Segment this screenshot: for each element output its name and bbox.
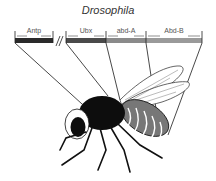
ubx-bar <box>66 38 106 43</box>
fly-diagram <box>0 0 216 181</box>
break-mark-icon <box>56 36 63 46</box>
abd-a-bar <box>106 38 146 43</box>
abd-b-bar <box>146 38 202 43</box>
antp-bar <box>15 38 53 43</box>
gene-bars <box>15 31 202 46</box>
